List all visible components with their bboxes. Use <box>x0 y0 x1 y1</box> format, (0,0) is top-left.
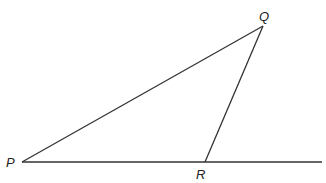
segment-pq <box>22 26 263 162</box>
triangle-diagram: Q P R <box>0 0 326 183</box>
label-r: R <box>196 167 205 182</box>
label-p: P <box>6 155 15 170</box>
segment-qr <box>205 26 263 162</box>
label-q: Q <box>259 9 269 24</box>
